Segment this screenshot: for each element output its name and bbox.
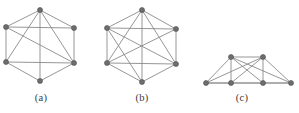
graph-vertex [174, 27, 179, 32]
graph-vertex [261, 81, 266, 86]
graph-edge [6, 62, 74, 63]
graph-edge [107, 63, 176, 64]
graph-edge [107, 29, 176, 63]
graph-vertex [72, 61, 77, 66]
graph-vertex [4, 60, 9, 65]
graph-edge [263, 57, 291, 83]
edges-layer [6, 10, 291, 83]
graph-edge [206, 57, 263, 83]
graph-vertex [229, 81, 234, 86]
graph-edge [6, 62, 40, 81]
graph-vertex [105, 61, 110, 66]
graph-figure: (a) (b) (c) [0, 0, 299, 113]
graph-edge [231, 57, 291, 83]
vertices-layer [4, 8, 294, 86]
graph-vertex [229, 55, 234, 60]
graph-edge [107, 10, 142, 28]
graph-edge [40, 10, 74, 63]
graph-edge [206, 57, 231, 83]
panel-caption-c: (c) [222, 92, 262, 103]
graph-vertex [204, 81, 209, 86]
graph-vertex [140, 8, 145, 13]
graph-vertex [38, 8, 43, 13]
panel-caption-b: (b) [122, 92, 162, 103]
graph-vertex [140, 80, 145, 85]
graph-vertex [105, 26, 110, 31]
graph-edge [40, 10, 74, 28]
graph-edge [107, 28, 176, 29]
graph-vertex [38, 79, 43, 84]
graph-edge [6, 27, 74, 28]
graph-vertex [289, 81, 294, 86]
graph-edge [107, 63, 142, 82]
graph-vertex [4, 25, 9, 30]
panel-caption-a: (a) [21, 92, 61, 103]
graph-vertex [72, 26, 77, 31]
graph-vertex [174, 62, 179, 67]
graph-edge [40, 63, 74, 81]
graph-vertex [261, 55, 266, 60]
graph-edge [142, 64, 176, 82]
graph-edge [142, 10, 176, 29]
